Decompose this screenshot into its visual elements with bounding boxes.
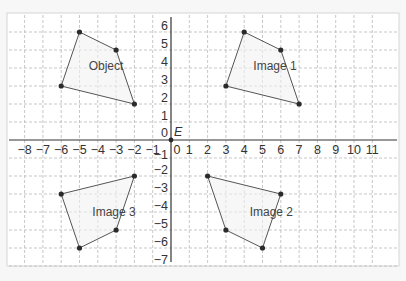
x-tick-label: 6 [277, 143, 284, 157]
image-1-label: Image 1 [253, 59, 297, 73]
x-tick-label: −6 [54, 143, 68, 157]
y-tick-label: −1 [154, 148, 168, 162]
x-tick-label: 7 [296, 143, 303, 157]
y-tick-label: 4 [161, 55, 168, 69]
vertex-point [132, 101, 137, 106]
vertex-point [260, 245, 265, 250]
y-tick-label: 1 [161, 109, 168, 123]
x-tick-label: −3 [109, 143, 123, 157]
vertex-point [278, 191, 283, 196]
x-tick-label: 4 [241, 143, 248, 157]
y-tick-label: −5 [154, 217, 168, 231]
x-tick-label: −8 [17, 143, 31, 157]
object-label: Object [89, 59, 124, 73]
x-tick-label: 11 [366, 143, 379, 157]
y-tick-label: 6 [161, 19, 168, 33]
y-tick-label: −6 [154, 235, 168, 249]
x-tick-label: 3 [222, 143, 229, 157]
x-tick-label: −5 [72, 143, 86, 157]
y-tick-label: −4 [154, 199, 168, 213]
x-tick-label: 1 [186, 143, 193, 157]
y-tick-label: −7 [154, 253, 168, 267]
origin-point [169, 138, 174, 143]
x-tick-label: 9 [332, 143, 339, 157]
vertex-point [77, 245, 82, 250]
x-tick-label: −4 [91, 143, 105, 157]
vertex-point [59, 191, 64, 196]
x-tick-label: 5 [259, 143, 266, 157]
vertex-point [223, 227, 228, 232]
diagram-canvas: −8−7−6−5−4−3−2−101234567891011 6543210−1… [0, 0, 406, 281]
x-tick-label: −7 [36, 143, 50, 157]
y-tick-label: 2 [161, 91, 168, 105]
image-3-label: Image 3 [92, 205, 136, 219]
coordinate-grid: −8−7−6−5−4−3−2−101234567891011 6543210−1… [0, 0, 406, 281]
x-tick-label: 8 [314, 143, 321, 157]
x-tick-label: 10 [347, 143, 361, 157]
vertex-point [205, 173, 210, 178]
vertex-point [297, 101, 302, 106]
vertex-point [242, 29, 247, 34]
x-tick-label: 2 [204, 143, 211, 157]
vertex-point [132, 173, 137, 178]
y-tick-label: −3 [154, 181, 168, 195]
origin-label: E [174, 125, 183, 139]
vertex-point [59, 83, 64, 88]
vertex-point [114, 47, 119, 52]
x-tick-label: −2 [127, 143, 141, 157]
y-tick-label: 5 [161, 37, 168, 51]
vertex-point [114, 227, 119, 232]
vertex-point [77, 29, 82, 34]
y-tick-label: 0 [161, 126, 168, 140]
vertex-point [223, 83, 228, 88]
vertex-point [278, 47, 283, 52]
y-tick-label: 3 [161, 73, 168, 87]
image-2-label: Image 2 [250, 205, 294, 219]
y-tick-label: −2 [154, 163, 168, 177]
x-tick-label: 0 [174, 143, 181, 157]
